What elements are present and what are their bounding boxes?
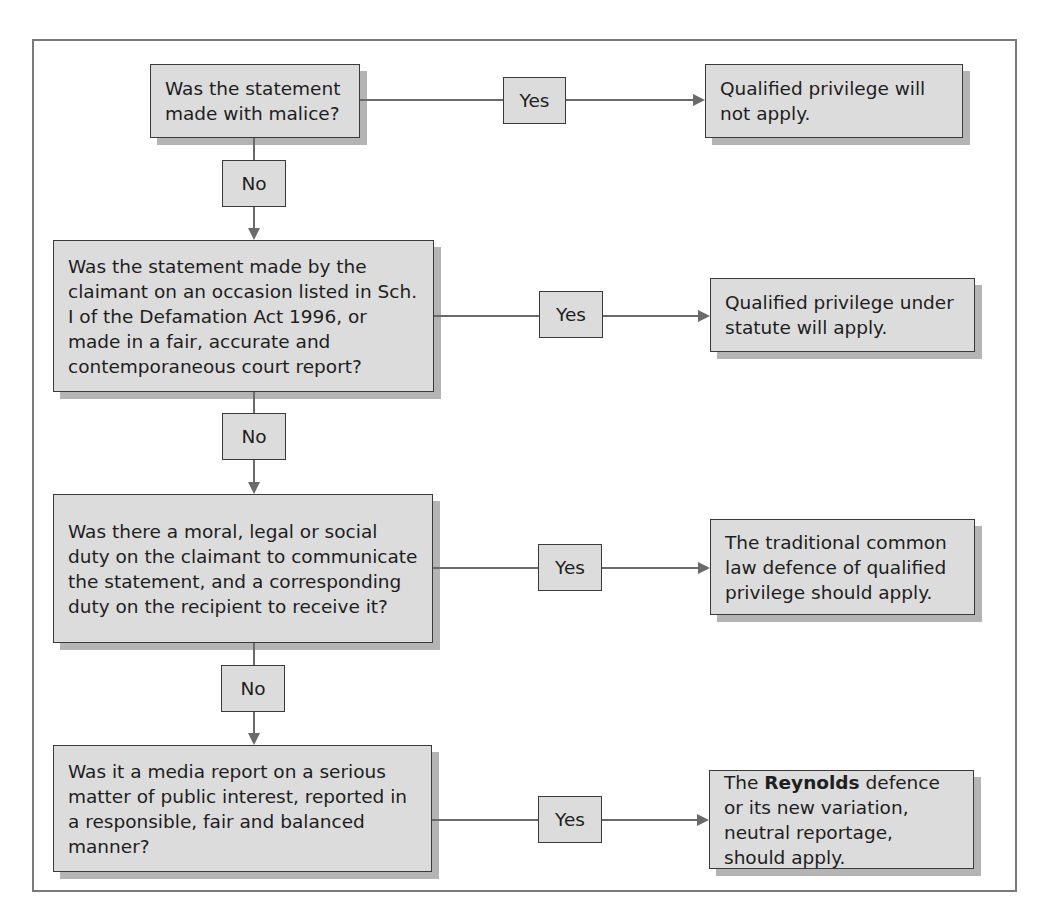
question-text: Was it a media report on a serious matte… (68, 759, 417, 859)
connector-line (566, 99, 694, 101)
outcome-box-reynolds: The Reynolds defence or its new variatio… (709, 770, 974, 869)
outcome-box-no-privilege: Qualified privilege will not apply. (705, 64, 963, 138)
connector-line (253, 712, 255, 733)
arrow-down-icon (248, 733, 260, 745)
outcome-text: The Reynolds defence or its new variatio… (724, 770, 959, 870)
yes-label: Yes (503, 77, 566, 124)
outcome-text: The traditional common law defence of qu… (725, 530, 960, 605)
connector-line (434, 315, 539, 317)
outcome-box-common-law: The traditional common law defence of qu… (710, 519, 975, 615)
outcome-text: Qualified privilege will not apply. (720, 76, 948, 126)
outcome-text: Qualified privilege under statute will a… (725, 290, 960, 340)
question-box-statute: Was the statement made by the claimant o… (53, 240, 434, 392)
arrow-down-icon (248, 482, 260, 494)
question-text: Was there a moral, legal or social duty … (68, 519, 418, 619)
question-text: Was the statement made with malice? (165, 76, 345, 126)
arrow-down-icon (248, 228, 260, 240)
question-box-malice: Was the statement made with malice? (150, 64, 360, 138)
yes-label: Yes (538, 544, 602, 591)
arrow-right-icon (693, 94, 705, 106)
no-label: No (222, 413, 286, 460)
case-name-reynolds: Reynolds (764, 772, 859, 793)
outcome-box-statutory-privilege: Qualified privilege under statute will a… (710, 278, 975, 352)
connector-line (253, 392, 255, 413)
question-box-media-report: Was it a media report on a serious matte… (53, 745, 432, 872)
arrow-right-icon (698, 310, 710, 322)
yes-label: Yes (539, 291, 603, 338)
connector-line (602, 819, 698, 821)
connector-line (360, 99, 503, 101)
connector-line (602, 567, 699, 569)
connector-line (253, 138, 255, 160)
question-box-duty: Was there a moral, legal or social duty … (53, 494, 433, 643)
arrow-right-icon (698, 562, 710, 574)
connector-line (253, 643, 255, 665)
connector-line (433, 567, 538, 569)
question-text: Was the statement made by the claimant o… (68, 254, 419, 379)
connector-line (253, 207, 255, 229)
arrow-right-icon (697, 814, 709, 826)
no-label: No (222, 160, 286, 207)
no-label: No (221, 665, 285, 712)
connector-line (432, 819, 538, 821)
connector-line (253, 460, 255, 482)
connector-line (603, 315, 699, 317)
yes-label: Yes (538, 796, 602, 843)
